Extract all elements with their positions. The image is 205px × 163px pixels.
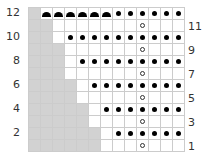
no-stitch-cell: [89, 128, 101, 140]
stitch-cell: [77, 68, 89, 80]
purl-dot-icon: [128, 107, 133, 112]
stitch-cell: [101, 128, 113, 140]
stitch-cell: [161, 104, 173, 116]
purl-dot-icon: [104, 59, 109, 64]
purl-dot-icon: [152, 131, 157, 136]
purl-dot-icon: [164, 131, 169, 136]
stitch-cell: [89, 8, 101, 20]
stitch-cell: [149, 44, 161, 56]
stitch-cell: [161, 56, 173, 68]
stitch-cell: [101, 44, 113, 56]
row-label: 12: [4, 7, 20, 19]
no-stitch-cell: [89, 140, 101, 152]
purl-dot-icon: [104, 35, 109, 40]
stitch-cell: [113, 128, 125, 140]
stitch-cell: [149, 8, 161, 20]
stitch-cell: [101, 92, 113, 104]
stitch-cell: [161, 68, 173, 80]
bind-off-arc-icon: [42, 12, 51, 17]
stitch-cell: [113, 56, 125, 68]
stitch-cell: [173, 44, 185, 56]
stitch-cell: [65, 56, 77, 68]
no-stitch-cell: [77, 116, 89, 128]
stitch-cell: [65, 8, 77, 20]
purl-dot-icon: [140, 11, 145, 16]
stitch-cell: [161, 8, 173, 20]
stitch-cell: [125, 116, 137, 128]
purl-dot-icon: [176, 59, 181, 64]
no-stitch-cell: [77, 128, 89, 140]
purl-dot-icon: [140, 107, 145, 112]
row-label: 11: [188, 21, 202, 33]
stitch-cell: [149, 56, 161, 68]
stitch-cell: [65, 44, 77, 56]
stitch-cell: [173, 32, 185, 44]
stitch-cell: [53, 8, 65, 20]
stitch-cell: [137, 20, 149, 32]
stitch-cell: [125, 32, 137, 44]
no-stitch-cell: [41, 20, 53, 32]
stitch-cell: [161, 92, 173, 104]
bind-off-arc-icon: [90, 12, 99, 17]
purl-dot-icon: [128, 59, 133, 64]
row-label: 7: [188, 69, 195, 81]
row-label: 3: [188, 117, 195, 129]
no-stitch-cell: [53, 80, 65, 92]
no-stitch-cell: [29, 20, 41, 32]
no-stitch-cell: [53, 140, 65, 152]
purl-dot-icon: [68, 35, 73, 40]
stitch-cell: [77, 92, 89, 104]
stitch-cell: [113, 32, 125, 44]
no-stitch-cell: [53, 68, 65, 80]
stitch-cell: [77, 20, 89, 32]
no-stitch-cell: [29, 140, 41, 152]
stitch-cell: [161, 44, 173, 56]
stitch-cell: [161, 128, 173, 140]
stitch-cell: [89, 80, 101, 92]
stitch-cell: [149, 140, 161, 152]
stitch-cell: [173, 80, 185, 92]
purl-dot-icon: [92, 59, 97, 64]
stitch-cell: [113, 20, 125, 32]
no-stitch-cell: [29, 116, 41, 128]
purl-dot-icon: [104, 83, 109, 88]
stitch-cell: [101, 140, 113, 152]
stitch-cell: [41, 8, 53, 20]
purl-dot-icon: [140, 83, 145, 88]
purl-dot-icon: [92, 35, 97, 40]
stitch-cell: [125, 20, 137, 32]
stitch-cell: [89, 44, 101, 56]
purl-dot-icon: [140, 35, 145, 40]
bind-off-arc-icon: [102, 12, 111, 17]
stitch-cell: [173, 68, 185, 80]
purl-dot-icon: [176, 83, 181, 88]
stitch-cell: [125, 140, 137, 152]
purl-dot-icon: [116, 59, 121, 64]
stitch-cell: [113, 92, 125, 104]
purl-dot-icon: [164, 11, 169, 16]
stitch-cell: [149, 68, 161, 80]
no-stitch-cell: [53, 56, 65, 68]
stitch-cell: [53, 20, 65, 32]
stitch-cell: [173, 56, 185, 68]
no-stitch-cell: [65, 92, 77, 104]
stitch-cell: [53, 32, 65, 44]
stitch-cell: [101, 80, 113, 92]
purl-dot-icon: [104, 107, 109, 112]
no-stitch-cell: [29, 32, 41, 44]
stitch-cell: [137, 104, 149, 116]
stitch-cell: [137, 68, 149, 80]
row-label: 5: [188, 93, 195, 105]
purl-dot-icon: [116, 107, 121, 112]
no-stitch-cell: [41, 116, 53, 128]
no-stitch-cell: [41, 128, 53, 140]
purl-dot-icon: [128, 131, 133, 136]
stitch-cell: [125, 104, 137, 116]
stitch-cell: [89, 56, 101, 68]
purl-dot-icon: [116, 35, 121, 40]
yarn-over-icon: [140, 119, 145, 124]
stitch-cell: [101, 20, 113, 32]
stitch-cell: [137, 128, 149, 140]
stitch-cell: [173, 104, 185, 116]
stitch-cell: [173, 8, 185, 20]
